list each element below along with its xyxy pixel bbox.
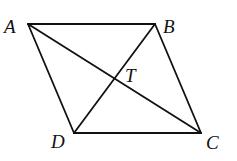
vertex-label-d: D xyxy=(50,131,65,152)
parallelogram-diagram: A B C D T xyxy=(0,0,237,161)
side-bc xyxy=(155,24,201,133)
vertex-label-b: B xyxy=(163,16,175,37)
diagonal-bd xyxy=(74,24,155,133)
vertex-label-a: A xyxy=(2,16,16,37)
intersection-label-t: T xyxy=(125,65,137,86)
vertex-label-c: C xyxy=(206,132,219,153)
side-da xyxy=(28,24,74,133)
